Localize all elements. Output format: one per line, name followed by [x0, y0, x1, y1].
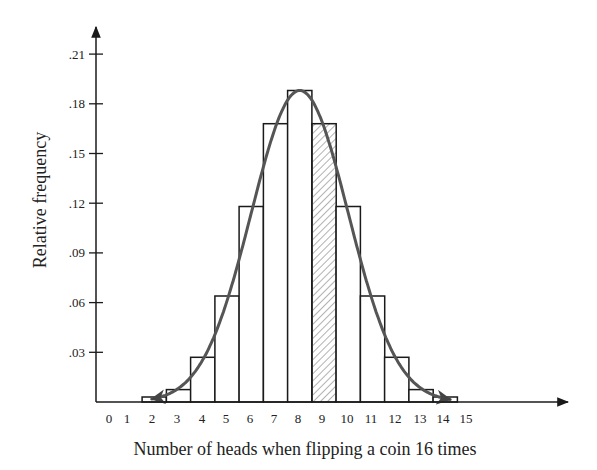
x-tick-label: 12 [389, 411, 402, 426]
x-tick-label: 11 [365, 411, 378, 426]
y-tick-label: .18 [69, 96, 85, 111]
x-tick-label: 15 [460, 411, 473, 426]
x-tick-label: 0 [106, 411, 113, 426]
x-tick-label: 13 [414, 411, 427, 426]
x-tick-label: 1 [124, 411, 131, 426]
x-tick-label: 6 [247, 411, 254, 426]
y-tick-label: .09 [69, 245, 85, 260]
histogram-bar [263, 124, 287, 402]
y-tick-label: .15 [69, 146, 85, 161]
y-axis-title: Relative frequency [30, 132, 50, 268]
histogram-bars [142, 91, 457, 403]
x-axis-title: Number of heads when flipping a coin 16 … [134, 439, 477, 459]
x-axis-ticks: 0123456789101112131415 [106, 411, 473, 426]
x-tick-label: 5 [223, 411, 230, 426]
histogram-chart: .03.06.09.12.15.18.21 012345678910111213… [0, 0, 597, 470]
y-tick-label: .12 [69, 196, 85, 211]
x-tick-label: 2 [149, 411, 156, 426]
histogram-bar [336, 207, 360, 403]
y-tick-label: .21 [69, 47, 85, 62]
y-axis-ticks: .03.06.09.12.15.18.21 [69, 47, 103, 360]
x-tick-label: 8 [295, 411, 302, 426]
x-tick-label: 10 [341, 411, 354, 426]
y-tick-label: .03 [69, 345, 85, 360]
histogram-bar-highlighted [312, 124, 336, 402]
histogram-bar [360, 296, 384, 402]
x-tick-label: 9 [319, 411, 326, 426]
histogram-bar [215, 296, 239, 402]
y-tick-label: .06 [69, 295, 86, 310]
histogram-bar [239, 207, 263, 403]
histogram-bar [191, 357, 215, 402]
histogram-bar [288, 91, 312, 403]
histogram-bar [166, 390, 190, 402]
x-tick-label: 7 [271, 411, 278, 426]
x-tick-label: 4 [199, 411, 206, 426]
x-tick-label: 3 [174, 411, 181, 426]
histogram-bar [409, 390, 433, 402]
x-tick-label: 14 [437, 411, 451, 426]
histogram-bar [385, 357, 409, 402]
